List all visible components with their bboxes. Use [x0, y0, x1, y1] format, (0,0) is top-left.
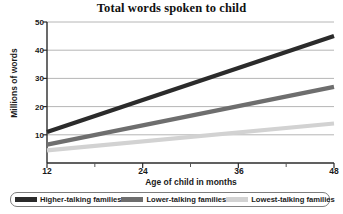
- legend-item: Lowest-talking families: [226, 195, 335, 204]
- legend-swatch-icon: [226, 197, 248, 202]
- legend-swatch-icon: [121, 197, 143, 202]
- legend-label: Lower-talking families: [146, 195, 226, 204]
- x-tick-label: 36: [226, 166, 252, 176]
- legend-label: Lowest-talking families: [251, 195, 335, 204]
- x-tick-label: 12: [34, 166, 60, 176]
- legend-label: Higher-talking families: [40, 195, 121, 204]
- legend-item: Lower-talking families: [121, 195, 226, 204]
- legend-item: Higher-talking families: [15, 195, 121, 204]
- chart-legend: Higher-talking families Lower-talking fa…: [10, 192, 330, 207]
- x-tick-label: 24: [130, 166, 156, 176]
- x-tick-label: 48: [321, 166, 343, 176]
- x-axis-title: Age of child in months: [47, 177, 335, 187]
- legend-swatch-icon: [15, 197, 37, 202]
- chart-container: Total words spoken to child Millions of …: [0, 0, 343, 214]
